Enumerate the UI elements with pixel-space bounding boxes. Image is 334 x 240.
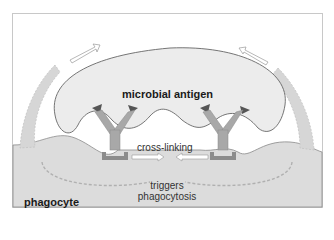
arrow-upper-left-icon	[70, 44, 100, 63]
label-cross-linking: cross-linking	[137, 142, 193, 153]
label-phagocytosis: phagocytosis	[136, 191, 198, 202]
antibody-right	[203, 110, 243, 150]
label-triggers-phagocytosis: triggers phagocytosis	[136, 180, 198, 202]
label-phagocyte: phagocyte	[24, 196, 79, 208]
label-microbial-antigen: microbial antigen	[122, 88, 213, 100]
label-triggers: triggers	[136, 180, 198, 191]
